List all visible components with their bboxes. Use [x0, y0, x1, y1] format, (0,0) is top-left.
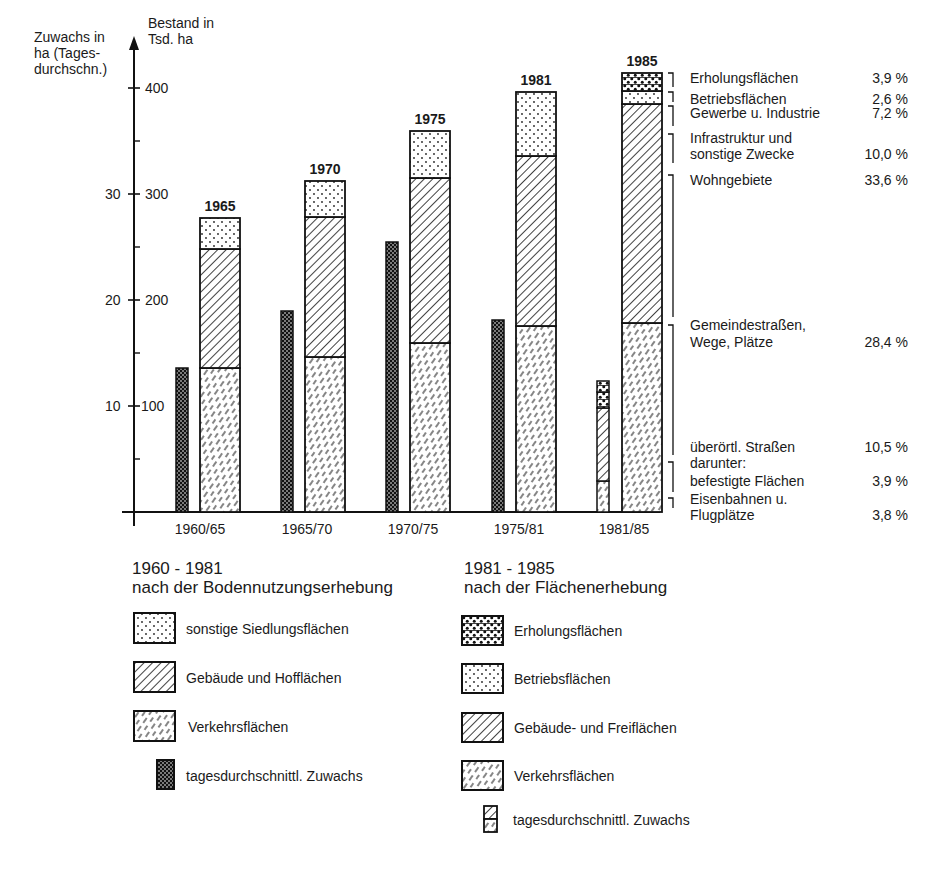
stock-bar-1981: [516, 92, 556, 512]
annotation-label: Gewerbe u. Industrie: [690, 105, 820, 121]
legend-heading: 1960 - 1981: [132, 559, 223, 578]
tick-label-20: 20: [105, 292, 121, 308]
legend-1960-1981: 1960 - 1981 nach der Bodennutzungserhebu…: [132, 559, 393, 789]
year-label-1981: 1981: [520, 72, 551, 88]
annotation-pct: 7,2 %: [872, 105, 908, 121]
annotation-brackets: [668, 73, 673, 508]
legend-label: Erholungsflächen: [514, 623, 622, 639]
legend-label: Betriebsflächen: [514, 671, 611, 687]
legend-swatch-hatch: [462, 713, 503, 742]
annotation-label: überörtl. Straßen: [690, 439, 795, 455]
annotation-label: Erholungsflächen: [690, 70, 798, 86]
tick-label-10: 10: [105, 398, 121, 414]
annotation-pct: 33,6 %: [864, 172, 908, 188]
legend-label: Gebäude- und Freiflächen: [514, 720, 677, 736]
growth-bar-1960-65: [176, 368, 188, 512]
annotation-label: Flugplätze: [690, 507, 755, 523]
annotation-pct: 10,0 %: [864, 146, 908, 162]
year-label-1985: 1985: [626, 53, 657, 69]
axis-arrow-icon: [129, 36, 139, 50]
growth-bar-1975-81: [492, 320, 504, 512]
legend-label: tagesdurchschnittl. Zuwachs: [186, 768, 363, 784]
annotation-label: sonstige Zwecke: [690, 146, 794, 162]
left-axis-label-1: Zuwachs in: [34, 29, 105, 45]
annotation-label: Eisenbahnen u.: [690, 491, 787, 507]
annotation-label: Gemeindestraßen,: [690, 317, 806, 333]
annotation-label: Infrastruktur und: [690, 130, 792, 146]
stock-bars: [200, 73, 662, 512]
left-axis-label-2: ha (Tages-: [34, 45, 100, 61]
tick-label-100: 100: [141, 398, 165, 414]
annotation-label: befestigte Flächen: [690, 473, 804, 489]
tick-label-300: 300: [145, 186, 169, 202]
annotations-1985: Erholungsflächen 3,9 % Betriebsflächen 2…: [690, 70, 908, 523]
legend-swatch-dashes: [462, 761, 503, 790]
legend-swatch-hatch: [134, 662, 175, 692]
growth-bar-1981-85: [597, 381, 609, 512]
category-label-1975-81: 1975/81: [494, 521, 545, 537]
tick-label-30: 30: [105, 186, 121, 202]
legend-label: Gebäude und Hofflächen: [186, 670, 341, 686]
category-label-1970-75: 1970/75: [388, 521, 439, 537]
category-label-1981-85: 1981/85: [599, 521, 650, 537]
legend-heading: 1981 - 1985: [464, 559, 555, 578]
tick-label-200: 200: [145, 292, 169, 308]
annotation-label: Wohngebiete: [690, 172, 772, 188]
legend-label: Verkehrsflächen: [188, 719, 288, 735]
legend-1981-1985: 1981 - 1985 nach der Flächenerhebung Erh…: [462, 559, 690, 832]
year-label-1965: 1965: [204, 198, 235, 214]
annotation-pct: 3,8 %: [872, 507, 908, 523]
right-axis-label-2: Tsd. ha: [148, 31, 193, 47]
legend-swatch-dense-dots: [462, 616, 503, 645]
annotation-pct: 28,4 %: [864, 334, 908, 350]
year-label-1975: 1975: [414, 111, 445, 127]
right-axis-label-1: Bestand in: [148, 15, 214, 31]
legend-heading: nach der Flächenerhebung: [464, 578, 667, 597]
legend-swatch-check: [157, 760, 174, 789]
annotation-pct: 3,9 %: [872, 70, 908, 86]
stock-bar-1975: [410, 131, 450, 512]
left-axis-label-3: durchschn.): [34, 61, 107, 77]
legend-swatch-dots: [134, 613, 175, 643]
stock-bar-1965: [200, 218, 240, 512]
annotation-pct: 3,9 %: [872, 473, 908, 489]
growth-bar-1965-70: [281, 311, 293, 512]
legend-heading: nach der Bodennutzungserhebung: [132, 578, 393, 597]
legend-swatch-dashes: [134, 711, 175, 741]
legend-label: sonstige Siedlungsflächen: [186, 621, 349, 637]
tick-label-400: 400: [145, 80, 169, 96]
stock-bar-1970: [305, 181, 345, 512]
annotation-pct: 10,5 %: [864, 439, 908, 455]
annotation-label: Wege, Plätze: [690, 334, 773, 350]
category-label-1965-70: 1965/70: [282, 521, 333, 537]
year-label-1970: 1970: [309, 161, 340, 177]
legend-swatch-combo: [484, 806, 497, 832]
growth-bar-1970-75: [386, 242, 398, 512]
legend-label: Verkehrsflächen: [514, 768, 614, 784]
legend-label: tagesdurchschnittl. Zuwachs: [513, 812, 690, 828]
stock-bar-1985: [622, 73, 662, 512]
annotation-label: darunter:: [690, 455, 746, 471]
legend-swatch-dots: [462, 664, 503, 693]
land-use-chart: Zuwachs in ha (Tages- durchschn.) Bestan…: [0, 0, 948, 878]
category-label-1960-65: 1960/65: [175, 521, 226, 537]
